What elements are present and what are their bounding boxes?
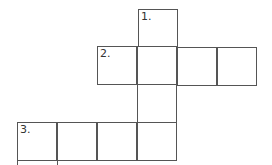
partial-cell-edge — [17, 160, 18, 165]
clue-number: 1. — [141, 11, 152, 23]
cell[interactable] — [137, 122, 177, 161]
cell[interactable] — [137, 84, 177, 123]
cell-1-down-start[interactable]: 1. — [138, 9, 178, 48]
clue-number: 3. — [20, 124, 31, 136]
cell[interactable] — [177, 47, 217, 86]
cell[interactable] — [97, 122, 137, 161]
cell[interactable] — [137, 46, 177, 85]
cell-2-across-start[interactable]: 2. — [97, 46, 137, 85]
clue-number: 2. — [100, 48, 111, 60]
cell[interactable] — [217, 47, 257, 86]
partial-cell-edge — [57, 160, 58, 165]
cell-3-across-start[interactable]: 3. — [17, 122, 57, 161]
cell[interactable] — [57, 122, 97, 161]
